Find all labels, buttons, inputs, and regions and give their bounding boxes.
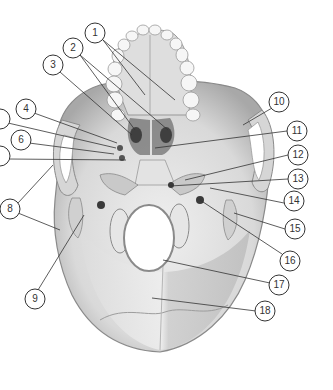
callout-8 <box>0 199 20 219</box>
callout-5 <box>0 109 10 129</box>
callout-16 <box>280 251 300 271</box>
callout-17 <box>269 275 289 295</box>
callout-11 <box>287 121 307 141</box>
skull-diagram: 1 2 3 4 5 6 7 8 9 10 11 12 13 14 15 16 1… <box>0 0 333 390</box>
callout-1 <box>85 23 105 43</box>
callout-2 <box>63 38 83 58</box>
callout-14 <box>284 191 304 211</box>
callout-6 <box>11 130 31 150</box>
callout-15 <box>285 219 305 239</box>
skull-illustration <box>0 0 333 390</box>
callout-12 <box>288 145 308 165</box>
callout-7 <box>0 146 10 166</box>
callout-10 <box>269 92 289 112</box>
callout-18 <box>255 301 275 321</box>
callout-3 <box>43 55 63 75</box>
callout-4 <box>16 99 36 119</box>
callout-13 <box>288 169 308 189</box>
callout-9 <box>25 289 45 309</box>
